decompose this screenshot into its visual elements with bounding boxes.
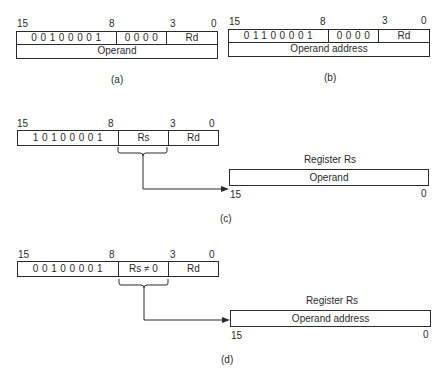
caption-d: (d) [221,355,233,365]
register-bit-0: 0 [423,330,429,340]
register-content: Operand address [231,311,430,326]
register-box: Operand address [230,310,431,327]
field-brace [119,279,168,288]
arrowhead-icon [222,317,230,323]
register-bit-15: 15 [231,331,242,341]
register-title: Register Rs [282,296,382,306]
